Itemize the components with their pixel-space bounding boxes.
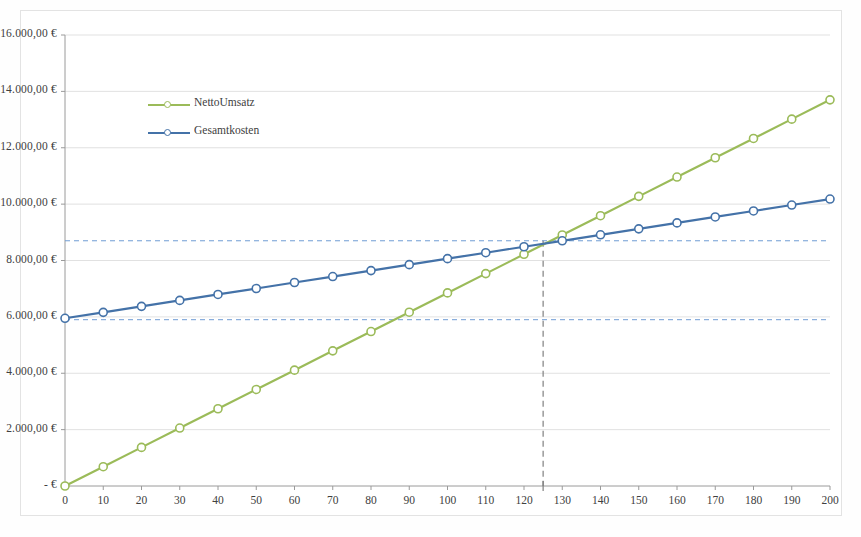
data-point-marker (61, 482, 69, 490)
x-axis-tick-label: 120 (504, 494, 544, 506)
y-axis-tick-label: 2.000,00 € (6, 422, 57, 434)
data-point-marker (444, 289, 452, 297)
data-point-marker (826, 96, 834, 104)
x-axis-tick-label: 130 (542, 494, 582, 506)
x-axis-tick-label: 150 (619, 494, 659, 506)
x-axis-tick-label: 110 (466, 494, 506, 506)
data-point-marker (826, 195, 834, 203)
y-axis-tick-label: 12.000,00 € (0, 140, 57, 152)
x-axis-tick-label: 160 (657, 494, 697, 506)
data-point-marker (214, 290, 222, 298)
data-point-marker (367, 328, 375, 336)
x-axis-tick-label: 60 (275, 494, 315, 506)
x-axis-tick-label: 100 (428, 494, 468, 506)
y-axis-tick-label: 8.000,00 € (6, 253, 57, 265)
x-axis-tick-label: 50 (236, 494, 276, 506)
data-point-marker (405, 261, 413, 269)
chart-plot-area (0, 0, 861, 537)
y-axis-tick-label: - € (44, 478, 57, 490)
data-point-marker (176, 424, 184, 432)
y-axis-tick-label: 10.000,00 € (0, 196, 57, 208)
data-point-marker (750, 207, 758, 215)
x-axis-tick-label: 140 (581, 494, 621, 506)
chart-container: - €2.000,00 €4.000,00 €6.000,00 €8.000,0… (0, 0, 861, 537)
x-axis-tick-label: 70 (313, 494, 353, 506)
y-axis-tick-label: 14.000,00 € (0, 83, 57, 95)
data-point-marker (635, 225, 643, 233)
x-axis-tick-label: 30 (160, 494, 200, 506)
data-point-marker (711, 154, 719, 162)
data-point-marker (291, 279, 299, 287)
data-point-marker (214, 405, 222, 413)
data-point-marker (597, 231, 605, 239)
x-axis-tick-label: 90 (389, 494, 429, 506)
data-point-marker (558, 237, 566, 245)
data-point-marker (750, 134, 758, 142)
data-point-marker (329, 347, 337, 355)
data-point-marker (673, 219, 681, 227)
x-axis-tick-label: 10 (83, 494, 123, 506)
data-point-marker (138, 443, 146, 451)
data-point-marker (367, 267, 375, 275)
data-point-marker (252, 284, 260, 292)
data-point-marker (520, 243, 528, 251)
data-point-marker (61, 314, 69, 322)
y-axis-tick-label: 16.000,00 € (0, 27, 57, 39)
legend-marker-icon (164, 101, 171, 108)
x-axis-tick-label: 20 (122, 494, 162, 506)
data-point-marker (673, 173, 681, 181)
legend-marker-icon (164, 129, 171, 136)
x-axis-tick-label: 200 (810, 494, 850, 506)
data-point-marker (482, 249, 490, 257)
x-axis-tick-label: 190 (772, 494, 812, 506)
y-axis-tick-label: 4.000,00 € (6, 365, 57, 377)
y-axis-tick-label: 6.000,00 € (6, 309, 57, 321)
x-axis-tick-label: 170 (695, 494, 735, 506)
data-point-marker (252, 385, 260, 393)
x-axis-tick-label: 80 (351, 494, 391, 506)
data-point-marker (99, 463, 107, 471)
data-point-marker (788, 115, 796, 123)
data-point-marker (405, 308, 413, 316)
data-point-marker (99, 308, 107, 316)
data-point-marker (138, 302, 146, 310)
data-point-marker (788, 201, 796, 209)
legend-label: NettoUmsatz (194, 96, 255, 108)
data-point-marker (176, 296, 184, 304)
x-axis-tick-label: 40 (198, 494, 238, 506)
data-point-marker (482, 270, 490, 278)
data-point-marker (291, 366, 299, 374)
data-point-marker (329, 273, 337, 281)
data-point-marker (711, 213, 719, 221)
data-point-marker (635, 192, 643, 200)
x-axis-tick-label: 0 (45, 494, 85, 506)
data-point-marker (444, 255, 452, 263)
legend-label: Gesamtkosten (194, 124, 259, 136)
x-axis-tick-label: 180 (734, 494, 774, 506)
data-point-marker (597, 212, 605, 220)
